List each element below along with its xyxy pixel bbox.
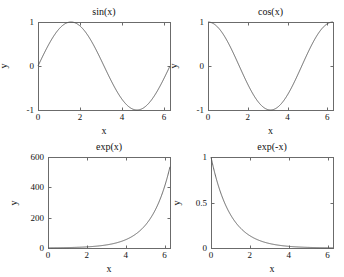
y-tick-label: 0	[12, 244, 44, 253]
x-tick-label: 2	[78, 113, 83, 122]
x-tick-label: 4	[120, 113, 125, 122]
axes-box	[49, 158, 171, 249]
x-tick-label: 2	[85, 251, 90, 260]
plot-title: exp(x)	[48, 141, 170, 152]
plot-title: sin(x)	[38, 6, 170, 17]
axes-box	[212, 158, 334, 249]
axes-box	[39, 23, 171, 111]
axes-box	[209, 23, 334, 111]
y-axis-label: y	[9, 191, 19, 215]
y-tick-label: -1	[2, 106, 34, 115]
x-tick-label: 0	[206, 113, 211, 122]
data-curve	[208, 22, 333, 110]
x-tick-label: 6	[325, 113, 330, 122]
y-tick-label: 400	[12, 183, 44, 192]
subplot-sin: sin(x)0246-101xy	[0, 0, 344, 277]
axes-area	[0, 0, 344, 277]
x-axis-label: x	[38, 126, 170, 136]
x-tick-label: 4	[286, 251, 291, 260]
y-tick-label: 0	[172, 62, 204, 71]
y-tick-label: 0	[175, 244, 207, 253]
data-curve	[38, 22, 170, 110]
x-axis-label: x	[211, 264, 333, 274]
y-tick-label: 1	[172, 18, 204, 27]
plot-title: cos(x)	[208, 6, 333, 17]
x-axis-label: x	[48, 264, 170, 274]
y-tick-label: 200	[12, 213, 44, 222]
y-axis-label: y	[169, 54, 179, 78]
x-tick-label: 6	[162, 251, 167, 260]
y-tick-label: 0	[2, 62, 34, 71]
axes-area	[0, 0, 344, 277]
y-tick-label: 1	[2, 18, 34, 27]
figure-canvas: sin(x)0246-101xycos(x)0246-101xyexp(x)02…	[0, 0, 344, 277]
x-tick-label: 0	[209, 251, 214, 260]
x-tick-label: 2	[246, 113, 251, 122]
y-axis-label: y	[172, 191, 182, 215]
y-tick-label: 1	[175, 153, 207, 162]
subplot-cos: cos(x)0246-101xy	[0, 0, 344, 277]
x-tick-label: 4	[123, 251, 128, 260]
y-tick-label: 600	[12, 153, 44, 162]
axes-area	[0, 0, 344, 277]
data-curve	[211, 157, 333, 248]
y-tick-label: -1	[172, 106, 204, 115]
y-axis-label: y	[0, 54, 9, 78]
x-tick-label: 6	[325, 251, 330, 260]
x-tick-label: 6	[162, 113, 167, 122]
x-tick-label: 0	[36, 113, 41, 122]
x-axis-label: x	[208, 126, 333, 136]
data-curve	[48, 167, 170, 248]
y-tick-label: 0.5	[175, 198, 207, 207]
x-tick-label: 2	[248, 251, 253, 260]
subplot-exp: exp(x)02460200400600xy	[0, 0, 344, 277]
subplot-negexp: exp(-x)024600.51xy	[0, 0, 344, 277]
axes-area	[0, 0, 344, 277]
x-tick-label: 0	[46, 251, 51, 260]
x-tick-label: 4	[285, 113, 290, 122]
plot-title: exp(-x)	[211, 141, 333, 152]
